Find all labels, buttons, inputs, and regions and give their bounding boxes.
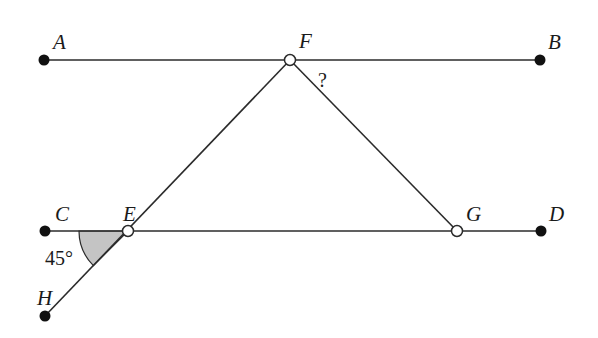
- label-F: F: [299, 31, 312, 52]
- label-C: C: [55, 204, 69, 225]
- label-D: D: [549, 204, 564, 225]
- point-C: [40, 226, 51, 237]
- point-B: [535, 55, 546, 66]
- point-D: [536, 226, 547, 237]
- label-H: H: [37, 288, 52, 309]
- point-A: [39, 55, 50, 66]
- label-A: A: [53, 32, 66, 53]
- unknown-angle-label: ?: [318, 70, 327, 90]
- line-HF: [45, 60, 290, 316]
- label-B: B: [548, 32, 561, 53]
- point-H: [40, 311, 51, 322]
- angle-45-label: 45°: [45, 248, 73, 268]
- point-G: [452, 226, 463, 237]
- line-FG: [290, 60, 457, 231]
- point-F: [285, 55, 296, 66]
- label-G: G: [466, 204, 481, 225]
- label-E: E: [123, 204, 136, 225]
- point-E: [123, 226, 134, 237]
